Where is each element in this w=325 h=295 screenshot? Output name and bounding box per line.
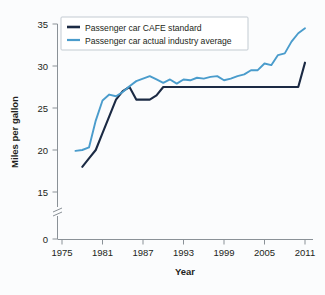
y-tick-label-20: 20 [37,145,48,156]
x-tick-label-1975: 1975 [51,247,72,258]
legend-label-cafe-standard: Passenger car CAFE standard [85,23,202,33]
fuel-economy-line-chart: 35 30 25 20 15 0 1975 1981 1987 1993 199… [0,0,325,295]
x-axis-title: Year [175,266,195,277]
axis-break-mark-lower [53,212,62,216]
x-tick-label-2011: 2011 [295,247,315,258]
chart-legend: Passenger car CAFE standard Passenger ca… [61,17,248,50]
chart-plot-area: 35 30 25 20 15 0 1975 1981 1987 1993 199… [0,0,325,295]
y-tick-label-25: 25 [37,103,48,114]
x-tick-label-1993: 1993 [173,247,194,258]
y-axis-title: Miles per gallon [9,96,20,168]
x-tick-label-1987: 1987 [132,247,153,258]
x-tick-label-1999: 1999 [213,247,234,258]
x-tick-label-2005: 2005 [254,247,275,258]
y-tick-label-15: 15 [37,187,48,198]
y-tick-label-35: 35 [37,19,48,30]
y-tick-label-30: 30 [37,61,48,72]
y-tick-label-0: 0 [43,234,48,245]
x-tick-label-1981: 1981 [92,247,113,258]
axis-break-mark-upper [53,208,62,212]
legend-label-industry-average: Passenger car actual industry average [85,36,232,46]
